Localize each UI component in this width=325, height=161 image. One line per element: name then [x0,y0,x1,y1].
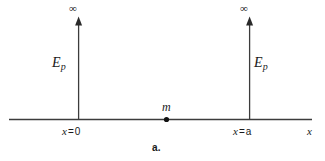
potential-well-figure: ∞ ∞ Ep Ep m x=0 x=a x a. [0,0,325,161]
left-tick-value: 0 [75,126,81,137]
x-axis-label: x [307,126,312,137]
right-potential-energy-label: Ep [254,56,268,72]
left-potential-energy-subscript: p [61,61,66,72]
left-infinity-symbol: ∞ [69,3,77,14]
left-tick-equals: = [67,126,75,137]
particle-mass-label: m [162,101,171,113]
left-tick-label: x=0 [62,126,80,137]
right-barrier-arrowhead [246,17,253,26]
right-potential-energy-subscript: p [263,61,268,72]
right-potential-energy-symbol: E [254,55,263,70]
left-potential-energy-label: Ep [52,56,66,72]
left-barrier-arrowhead [75,17,82,26]
right-tick-value: a [246,126,252,137]
right-tick-equals: = [238,126,246,137]
left-potential-energy-symbol: E [52,55,61,70]
figure-caption: a. [152,143,161,153]
potential-well-diagram [0,0,325,161]
right-infinity-symbol: ∞ [240,3,248,14]
particle-dot [164,117,169,122]
right-tick-label: x=a [233,126,251,137]
